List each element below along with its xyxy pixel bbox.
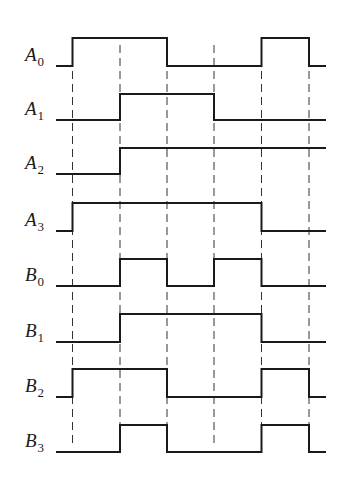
signal-label: B0: [25, 264, 44, 289]
signal-label: B2: [25, 375, 44, 400]
waveform-b2: [56, 369, 326, 397]
signal-label: B3: [25, 430, 44, 455]
waveform-a3: [56, 203, 326, 231]
signal-label: A3: [23, 209, 44, 234]
signal-label: B1: [25, 320, 44, 345]
waveform-b0: [56, 259, 326, 286]
signal-labels: A0A1A2A3B0B1B2B3: [23, 44, 44, 455]
signal-label: A0: [23, 44, 44, 69]
signal-waveforms: [56, 38, 326, 452]
waveform-a0: [56, 38, 326, 66]
waveform-a1: [56, 94, 326, 120]
waveform-a2: [56, 148, 326, 174]
signal-label: A2: [23, 152, 44, 177]
waveform-b1: [56, 314, 326, 342]
clock-edge-guides: [73, 45, 310, 448]
waveform-b3: [56, 425, 326, 452]
timing-diagram: A0A1A2A3B0B1B2B3: [0, 0, 348, 488]
signal-label: A1: [23, 98, 44, 123]
